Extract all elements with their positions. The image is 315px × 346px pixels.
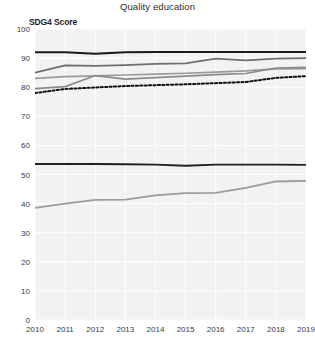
x-axis-tick-label: 2010 xyxy=(26,325,44,334)
y-axis-tick-label: 60 xyxy=(0,141,30,150)
chart-title: Quality education xyxy=(0,1,315,12)
y-axis-tick-label: 70 xyxy=(0,112,30,121)
y-axis-tick-label: 10 xyxy=(0,286,30,295)
x-axis-tick-label: 2013 xyxy=(116,325,134,334)
y-axis-label: SDG4 Score xyxy=(29,17,77,27)
x-axis-tick-label: 2018 xyxy=(267,325,285,334)
series-line-series-6-lower-flat xyxy=(35,164,306,166)
series-line-series-5-dotted xyxy=(35,76,306,93)
y-axis-tick-label: 100 xyxy=(0,25,30,34)
x-axis-tick-label: 2019 xyxy=(297,325,315,334)
y-axis-tick-label: 50 xyxy=(0,170,30,179)
x-axis-tick-label: 2014 xyxy=(147,325,165,334)
series-line-series-1-top-flat xyxy=(35,52,306,54)
plot-svg xyxy=(35,29,306,320)
y-axis-tick-label: 30 xyxy=(0,228,30,237)
y-axis-tick-label: 80 xyxy=(0,83,30,92)
x-axis-tick-label: 2017 xyxy=(237,325,255,334)
y-axis-tick-label: 0 xyxy=(0,316,30,325)
y-axis-tick-label: 90 xyxy=(0,54,30,63)
y-axis-tick-label: 40 xyxy=(0,199,30,208)
chart-container: Quality education SDG4 Score 01020304050… xyxy=(0,0,315,346)
x-axis-tick-label: 2011 xyxy=(57,325,74,334)
plot-area xyxy=(35,29,306,320)
x-axis-tick-label: 2015 xyxy=(177,325,195,334)
y-axis-tick-label: 20 xyxy=(0,257,30,266)
x-axis-tick-label: 2012 xyxy=(86,325,104,334)
x-axis-tick-label: 2016 xyxy=(207,325,225,334)
